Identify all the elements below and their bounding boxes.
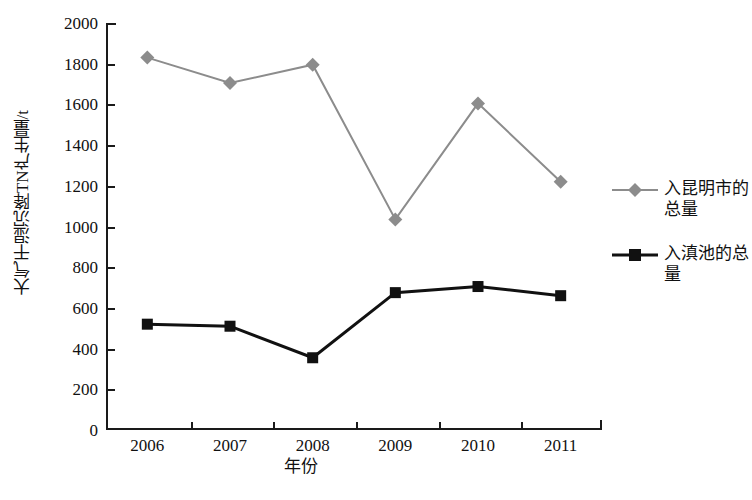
data-point-square-icon: [225, 321, 236, 332]
data-point-diamond-icon: [140, 51, 154, 65]
data-point-square-icon: [473, 281, 484, 292]
y-tick-label: 800: [42, 259, 98, 276]
y-tick-label: 0: [42, 422, 98, 439]
data-point-diamond-icon: [223, 76, 237, 90]
y-tick-label: 1600: [42, 96, 98, 113]
data-point-diamond-icon: [306, 58, 320, 72]
y-tick-label: 1800: [42, 55, 98, 72]
legend-entry[interactable]: 入昆明市的总量: [612, 178, 752, 221]
diamond-icon: [612, 182, 658, 198]
data-point-square-icon: [307, 352, 318, 363]
x-axis-title: 年份: [0, 452, 602, 477]
data-point-diamond-icon: [388, 212, 402, 226]
y-tick-label: 200: [42, 381, 98, 398]
chart-container: 大气干湿沉降TN产生量/t 02004006008001000120014001…: [0, 0, 752, 500]
legend-label: 入滇池的总量: [664, 243, 750, 286]
y-axis-tick-labels: 0200400600800100012001400160018002000: [42, 0, 98, 500]
series-plot: [106, 23, 602, 430]
y-tick-label: 600: [42, 299, 98, 316]
y-tick-label: 1400: [42, 137, 98, 154]
y-tick-label: 1000: [42, 218, 98, 235]
y-tick-label: 400: [42, 340, 98, 357]
square-icon: [612, 247, 658, 263]
legend-entry[interactable]: 入滇池的总量: [612, 243, 752, 286]
legend-label: 入昆明市的总量: [664, 178, 750, 221]
y-tick-label: 2000: [42, 15, 98, 32]
y-tick-label: 1200: [42, 177, 98, 194]
data-point-square-icon: [555, 290, 566, 301]
series-line: [147, 287, 560, 358]
data-point-square-icon: [390, 287, 401, 298]
series-line: [147, 58, 560, 220]
chart-legend: 入昆明市的总量入滇池的总量: [612, 178, 752, 307]
data-point-square-icon: [142, 319, 153, 330]
